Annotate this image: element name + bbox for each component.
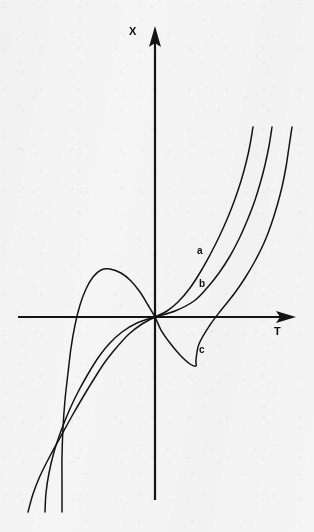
x-axis-label: T	[274, 326, 281, 337]
vertical-axis	[149, 26, 161, 500]
curve-c	[62, 127, 292, 512]
curve-group	[28, 127, 292, 512]
y-axis-label: X	[129, 26, 136, 37]
plot-canvas	[0, 0, 314, 532]
curve-b	[45, 127, 272, 512]
figure-root: X T abc	[0, 0, 314, 532]
curve-label-c: c	[199, 345, 205, 355]
curve-label-a: a	[197, 246, 203, 256]
curve-label-b: b	[199, 279, 205, 289]
